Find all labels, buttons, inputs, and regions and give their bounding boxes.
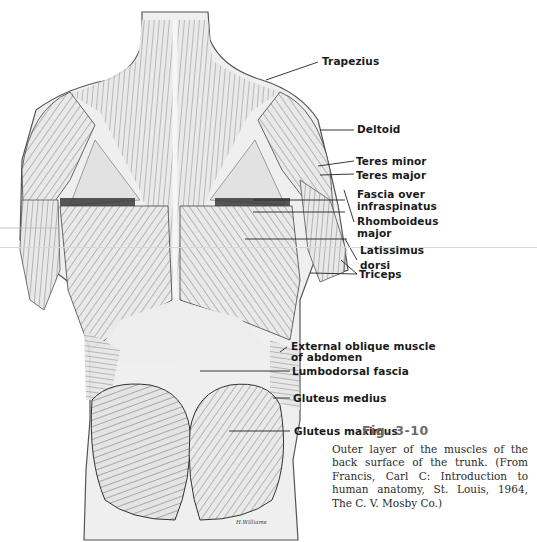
anatomy-figure: Trapezius Deltoid Teres minor Teres majo… — [0, 0, 537, 542]
label-line: infraspinatus — [357, 200, 437, 212]
label-teres-major: Teres major — [356, 169, 426, 181]
figure-caption: Outer layer of the muscles of the back s… — [332, 443, 528, 510]
label-line: major — [357, 227, 439, 239]
label-line: Fascia over — [357, 188, 437, 200]
label-line: of abdomen — [291, 352, 436, 363]
label-line: Rhomboideus — [357, 215, 439, 227]
label-triceps: Triceps — [359, 268, 402, 280]
label-trapezius: Trapezius — [322, 55, 379, 67]
scan-guide-line — [0, 247, 537, 248]
label-deltoid: Deltoid — [357, 123, 400, 135]
label-external-oblique: External oblique muscle of abdomen — [291, 341, 436, 363]
figure-number: Fig. 3-10 — [362, 423, 429, 438]
label-rhomboideus-major: Rhomboideus major — [357, 215, 439, 239]
label-fascia-infraspinatus: Fascia over infraspinatus — [357, 188, 437, 212]
label-teres-minor: Teres minor — [356, 155, 427, 167]
label-gluteus-medius: Gluteus medius — [293, 392, 387, 404]
label-lumbodorsal-fascia: Lumbodorsal fascia — [292, 365, 409, 377]
label-line: Latissimus — [360, 243, 424, 258]
artist-signature: H.Williams — [236, 519, 266, 525]
